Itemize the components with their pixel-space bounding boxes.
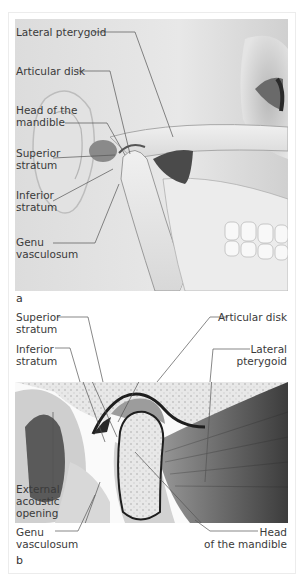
label-b-genu-vasculosum-line2: vasculosum bbox=[16, 538, 78, 550]
label-inferior-stratum-line1: Inferior bbox=[16, 189, 54, 201]
label-b-head-of-mandible-line1: Head bbox=[260, 526, 287, 538]
label-superior-stratum-line1: Superior bbox=[16, 147, 60, 159]
label-genu-vasculosum-line1: Genu bbox=[16, 236, 44, 248]
label-b-lateral-pterygoid-line1: Lateral bbox=[250, 343, 287, 355]
label-head-of-mandible-line2: mandible bbox=[16, 116, 65, 128]
label-b-head-of-mandible-line2: of the mandible bbox=[204, 538, 287, 550]
label-b-inferior-stratum-line1: Inferior bbox=[16, 343, 54, 355]
label-b-external-acoustic-line3: opening bbox=[16, 507, 58, 519]
label-b-genu-vasculosum-line1: Genu bbox=[16, 526, 44, 538]
label-superior-stratum-line2: stratum bbox=[16, 159, 57, 171]
label-b-inferior-stratum-line2: stratum bbox=[16, 355, 57, 367]
label-b-articular-disk: Articular disk bbox=[218, 311, 287, 323]
label-inferior-stratum-line2: stratum bbox=[16, 201, 57, 213]
label-b-superior-stratum-line2: stratum bbox=[16, 323, 57, 335]
label-b-external-acoustic-line1: External bbox=[16, 483, 60, 495]
label-head-of-mandible-line1: Head of the bbox=[16, 104, 77, 116]
label-b-external-acoustic-line2: acoustic bbox=[16, 495, 60, 507]
label-b-superior-stratum-line1: Superior bbox=[16, 311, 60, 323]
label-articular-disk: Articular disk bbox=[16, 65, 85, 77]
label-b-lateral-pterygoid-line2: pterygoid bbox=[237, 355, 287, 367]
label-lateral-pterygoid: Lateral pterygoid bbox=[16, 26, 106, 38]
label-genu-vasculosum-line2: vasculosum bbox=[16, 248, 78, 260]
panel-a-letter: a bbox=[16, 292, 23, 305]
panel-b-letter: b bbox=[16, 554, 23, 567]
